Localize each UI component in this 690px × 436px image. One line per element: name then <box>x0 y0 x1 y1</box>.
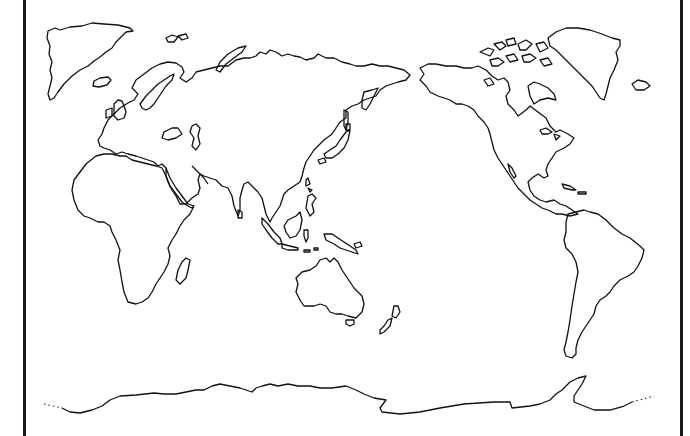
antarctica <box>62 376 632 414</box>
australia <box>296 258 364 318</box>
antarctica-dotted-edge-right <box>632 396 654 402</box>
eurasia <box>98 50 410 222</box>
british-isles <box>106 100 126 120</box>
new-guinea <box>324 234 362 254</box>
tasmania <box>346 320 354 326</box>
java <box>282 244 298 250</box>
world-map-frame: blank world outline map <box>0 0 690 436</box>
black-sea <box>162 128 182 140</box>
hudson-bay <box>528 82 556 104</box>
iceland-west <box>93 77 111 87</box>
borneo <box>284 212 302 238</box>
philippines <box>306 188 316 216</box>
greenland-west <box>47 23 133 100</box>
north-america <box>420 64 578 216</box>
antarctica-dotted-edge-left <box>44 404 62 408</box>
sumatra <box>262 218 282 244</box>
arctic-archipelago <box>480 38 552 86</box>
scandinavia <box>140 74 174 110</box>
madagascar <box>176 258 190 284</box>
south-america <box>564 210 644 358</box>
sulawesi <box>304 230 308 242</box>
caspian-sea <box>190 124 200 150</box>
greenland-east <box>548 28 620 100</box>
kamchatka <box>362 88 378 110</box>
africa <box>72 154 194 304</box>
world-outline-map <box>0 0 690 436</box>
svalbard <box>166 34 188 42</box>
lesser-sunda <box>304 248 318 252</box>
iceland-east <box>632 80 650 90</box>
taiwan <box>306 178 310 186</box>
new-zealand <box>380 306 400 334</box>
sri-lanka <box>238 210 242 218</box>
great-lakes <box>540 128 560 140</box>
cuba <box>562 184 586 194</box>
